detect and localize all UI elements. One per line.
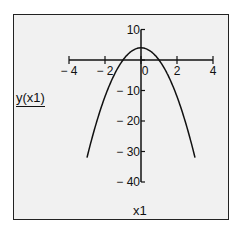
- y-tick-label: 10: [127, 23, 141, 37]
- x-tick-label: 0: [142, 64, 149, 78]
- plot-area: − 4− 202410− 10− 20− 30− 40: [0, 0, 236, 233]
- x-tick-label: 4: [210, 64, 217, 78]
- x-tick-label: − 4: [60, 64, 77, 78]
- y-tick-label: − 20: [116, 114, 140, 128]
- x-tick-label: − 2: [96, 64, 113, 78]
- x-tick-label: 2: [174, 64, 181, 78]
- x-axis-label: x1: [133, 203, 147, 218]
- y-axis-label: y(x1): [16, 90, 45, 107]
- y-tick-label: − 10: [116, 84, 140, 98]
- y-tick-label: − 30: [116, 145, 140, 159]
- y-tick-label: − 40: [116, 175, 140, 189]
